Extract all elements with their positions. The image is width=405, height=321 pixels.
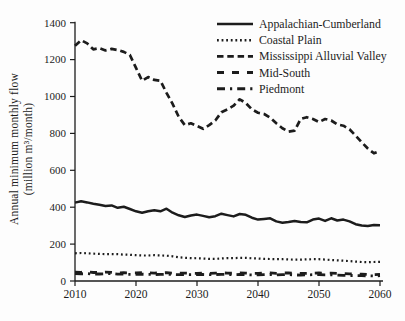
x-tick-label: 2010 bbox=[64, 288, 87, 300]
y-tick-label: 200 bbox=[50, 238, 67, 250]
y-axis-label-line1: Annual minimum monthly flow bbox=[7, 24, 21, 274]
legend-item-appalachian-cumberland: Appalachian-Cumberland bbox=[217, 17, 381, 31]
y-axis-label: Annual minimum monthly flow (million m³/… bbox=[7, 24, 35, 274]
y-tick-label: 400 bbox=[50, 201, 67, 213]
series-line-appalachian-cumberland bbox=[75, 201, 380, 226]
legend-label-piedmont: Piedmont bbox=[259, 82, 305, 96]
legend-item-piedmont: Piedmont bbox=[217, 82, 305, 96]
y-tick-label: 800 bbox=[50, 127, 67, 139]
y-tick-label: 1400 bbox=[44, 17, 67, 29]
y-tick-label: 0 bbox=[61, 275, 67, 287]
y-tick-label: 1200 bbox=[44, 53, 67, 65]
legend-item-coastal-plain: Coastal Plain bbox=[217, 33, 322, 47]
series-line-coastal-plain bbox=[75, 253, 380, 262]
x-tick-label: 2030 bbox=[186, 288, 209, 300]
chart-figure: 0200400600800100012001400201020202030204… bbox=[0, 0, 405, 321]
line-chart: 0200400600800100012001400201020202030204… bbox=[0, 0, 405, 321]
legend-item-mississippi-alluvial-valley: Mississippi Alluvial Valley bbox=[217, 49, 387, 63]
legend-label-appalachian-cumberland: Appalachian-Cumberland bbox=[259, 17, 381, 31]
legend: Appalachian-CumberlandCoastal PlainMissi… bbox=[217, 17, 387, 96]
y-tick-label: 600 bbox=[50, 164, 67, 176]
y-tick-label: 1000 bbox=[44, 90, 67, 102]
legend-label-mid-south: Mid-South bbox=[259, 66, 310, 80]
x-tick-label: 2040 bbox=[247, 288, 270, 300]
y-axis-label-line2: (million m³/month) bbox=[21, 24, 35, 274]
x-tick-label: 2050 bbox=[308, 288, 331, 300]
x-tick-label: 2060 bbox=[369, 288, 392, 300]
legend-item-mid-south: Mid-South bbox=[217, 66, 310, 80]
x-tick-label: 2020 bbox=[125, 288, 148, 300]
legend-label-coastal-plain: Coastal Plain bbox=[259, 33, 322, 47]
legend-label-mississippi-alluvial-valley: Mississippi Alluvial Valley bbox=[259, 49, 387, 63]
